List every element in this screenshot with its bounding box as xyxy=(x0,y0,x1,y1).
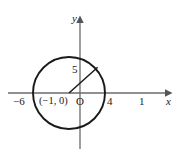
x-tick-label-minus-6: −6 xyxy=(13,96,25,107)
coordinate-plane-svg xyxy=(0,0,180,158)
x-tick-label-1: 1 xyxy=(139,96,145,107)
geometry-figure: x y −6 (−1, 0) O 4 1 5 xyxy=(0,0,180,158)
x-axis-label: x xyxy=(166,96,171,107)
x-tick-label-4: 4 xyxy=(107,96,113,107)
radius-length-label: 5 xyxy=(72,64,78,75)
circle-center-label: (−1, 0) xyxy=(39,96,68,107)
origin-label: O xyxy=(76,96,84,107)
y-axis-label: y xyxy=(72,13,77,24)
